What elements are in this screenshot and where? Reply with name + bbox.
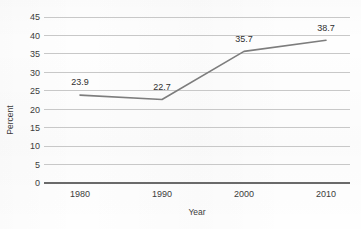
y-tick-label-20: 20	[30, 105, 40, 115]
y-tick-label-45: 45	[30, 12, 40, 22]
x-tick-label-2010: 2010	[316, 189, 336, 199]
y-tick-label-15: 15	[30, 123, 40, 133]
y-tick-label-25: 25	[30, 86, 40, 96]
x-tick-label-2000: 2000	[234, 189, 254, 199]
line-chart: 45 40 35 30 25 20 15 10 5 0 Percent 23.9…	[0, 0, 361, 229]
chart-page: 45 40 35 30 25 20 15 10 5 0 Percent 23.9…	[0, 0, 361, 229]
x-axis-tick-labels: 1980 1990 2000 2010	[70, 189, 336, 199]
y-tick-label-30: 30	[30, 68, 40, 78]
y-tick-label-10: 10	[30, 141, 40, 151]
gridlines	[44, 17, 350, 165]
x-tick-label-1980: 1980	[70, 189, 90, 199]
data-labels: 23.9 22.7 35.7 38.7	[71, 23, 335, 92]
data-label-2010: 38.7	[317, 23, 335, 33]
data-label-1990: 22.7	[153, 82, 171, 92]
x-axis-title: Year	[188, 207, 205, 217]
y-axis-tick-labels: 45 40 35 30 25 20 15 10 5 0	[30, 12, 40, 188]
y-axis-title: Percent	[5, 105, 15, 135]
x-tick-label-1990: 1990	[152, 189, 172, 199]
y-tick-label-40: 40	[30, 31, 40, 41]
y-tick-label-5: 5	[35, 160, 40, 170]
y-tick-label-35: 35	[30, 49, 40, 59]
data-label-1980: 23.9	[71, 77, 89, 87]
y-tick-label-0: 0	[35, 178, 40, 188]
data-label-2000: 35.7	[235, 34, 253, 44]
